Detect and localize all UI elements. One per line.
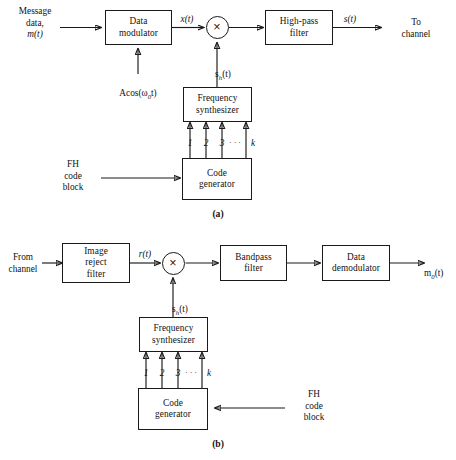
label-fh-code-block-tx: FH code block — [48, 159, 98, 194]
label-signal-st: s(t) — [336, 14, 364, 26]
block-code-generator-tx[interactable]: Code generator — [182, 158, 252, 200]
label-hop-signal-tx: sh(t) — [200, 57, 246, 82]
caption-panel-a: (a) — [196, 208, 240, 219]
block-frequency-synthesizer-rx[interactable]: Frequency synthesizer — [139, 317, 208, 352]
synth-input-label-2-tx: 2 — [200, 138, 212, 150]
synth-input-label-1-rx: 1 — [140, 368, 152, 380]
multiplier-node-rx[interactable]: × — [162, 252, 185, 275]
block-data-modulator[interactable]: Data modulator — [105, 10, 172, 45]
block-frequency-synthesizer-tx[interactable]: Frequency synthesizer — [183, 87, 252, 122]
multiply-icon: × — [207, 17, 228, 38]
label-from-channel: From channel — [2, 252, 44, 275]
block-data-demodulator[interactable]: Data demodulator — [322, 245, 390, 281]
label-fh-code-block-rx: FH code block — [289, 389, 339, 424]
multiplier-node-tx[interactable]: × — [206, 16, 229, 39]
label-message-data-source: Message data, — [10, 6, 60, 29]
hop-signal-tail: (t) — [222, 69, 231, 79]
block-image-reject-filter[interactable]: Image reject filter — [62, 243, 130, 283]
hop-signal-tail: (t) — [179, 304, 188, 314]
label-carrier-acos: Acos(ω0t) — [103, 76, 173, 101]
carrier-cos: cos( — [126, 88, 142, 98]
label-hop-signal-rx: sh(t) — [157, 292, 203, 317]
output-tail: (t) — [435, 268, 444, 278]
caption-panel-b: (b) — [196, 438, 240, 449]
label-signal-xt: x(t) — [173, 14, 201, 26]
diagram-canvas: Data modulator × High-pass filter Freque… — [0, 0, 456, 460]
synth-input-label-k-rx: k — [203, 368, 215, 380]
label-signal-rt: r(t) — [131, 249, 159, 261]
block-code-generator-rx[interactable]: Code generator — [138, 388, 208, 430]
synth-input-label-k-tx: k — [247, 138, 259, 150]
synth-input-label-1-tx: 1 — [184, 138, 196, 150]
synth-input-ellipsis-tx: · · · — [225, 138, 245, 148]
synth-input-label-2-rx: 2 — [156, 368, 168, 380]
synth-input-ellipsis-rx: · · · — [181, 368, 201, 378]
block-high-pass-filter[interactable]: High-pass filter — [265, 10, 333, 45]
carrier-amplitude: A — [119, 88, 126, 98]
block-bandpass-filter[interactable]: Bandpass filter — [220, 245, 287, 281]
label-output-m0t: m0(t) — [424, 256, 456, 281]
label-message-signal-mt: m(t) — [10, 29, 60, 41]
label-to-channel: To channel — [385, 17, 447, 40]
carrier-tail: t) — [151, 88, 157, 98]
multiply-icon: × — [163, 253, 184, 274]
